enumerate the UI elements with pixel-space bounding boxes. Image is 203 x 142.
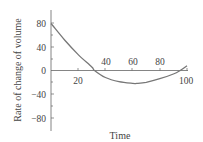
x-tick-label: 20 — [73, 76, 83, 86]
y-tick-label: −40 — [31, 90, 46, 100]
x-tick-label: 40 — [101, 57, 111, 67]
chart: 80 40 0 −40 −80 20 40 60 80 100 Time Rat… — [0, 0, 203, 142]
y-tick-label: 40 — [37, 43, 47, 53]
y-tick-label: −80 — [31, 114, 46, 124]
y-tick-label: 80 — [37, 19, 47, 29]
y-axis-label: Rate of change of volume — [12, 18, 23, 122]
x-tick-label: 80 — [155, 57, 165, 67]
x-tick-label: 60 — [128, 57, 138, 67]
data-curve — [51, 24, 187, 84]
x-tick-label: 100 — [179, 76, 194, 86]
x-axis-label: Time — [110, 130, 131, 141]
y-tick-label: 0 — [41, 66, 46, 76]
